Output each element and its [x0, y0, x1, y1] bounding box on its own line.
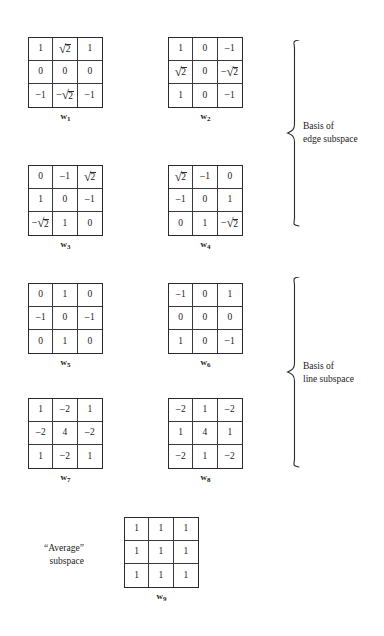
- matrix-cell: 0: [193, 84, 217, 107]
- matrix-cell: 0: [169, 307, 193, 330]
- matrix-cell: –1: [53, 166, 77, 189]
- matrix-caption-subscript: 7: [67, 476, 71, 484]
- matrix-cell: –1: [169, 189, 193, 212]
- matrix-cell: 1: [193, 212, 217, 235]
- matrix-w1: 1√21000–1–√2–1: [28, 37, 103, 108]
- matrix-basis-figure: 1√21000–1–√2–1w110–1√20–√210–1w20–1√210–…: [0, 0, 384, 636]
- matrix-cell: –√2: [218, 212, 242, 235]
- matrix-caption-w3: w3: [28, 239, 103, 251]
- matrix-caption-subscript: 8: [207, 476, 211, 484]
- matrix-cell: 0: [29, 166, 53, 189]
- matrix-cell: 0: [169, 212, 193, 235]
- matrix-cell: –2: [78, 422, 102, 445]
- matrix-cell: –2: [53, 445, 77, 468]
- matrix-cell: 0: [29, 330, 53, 353]
- matrix-cell: 0: [193, 61, 217, 84]
- matrix-cell: –1: [29, 307, 53, 330]
- matrix-cell: 0: [218, 307, 242, 330]
- matrix-cell: –1: [78, 189, 102, 212]
- matrix-cell: –2: [218, 399, 242, 422]
- matrix-caption-w6: w6: [168, 357, 243, 369]
- matrix-caption-subscript: 2: [207, 115, 211, 123]
- matrix-cell: 1: [53, 284, 77, 307]
- matrix-cell: –1: [78, 307, 102, 330]
- matrix-cell: 1: [125, 518, 149, 541]
- matrix-cell: 1: [78, 445, 102, 468]
- matrix-cell: 0: [53, 189, 77, 212]
- matrix-cell: 1: [29, 189, 53, 212]
- matrix-cell: 0: [78, 284, 102, 307]
- matrix-cell: 0: [193, 38, 217, 61]
- matrix-cell: –1: [218, 330, 242, 353]
- matrix-cell: –1: [169, 284, 193, 307]
- matrix-cell: 0: [29, 61, 53, 84]
- matrix-cell: –2: [29, 422, 53, 445]
- matrix-cell: 0: [193, 284, 217, 307]
- matrix-w5: 010–10–1010: [28, 283, 103, 354]
- matrix-cell: 4: [193, 422, 217, 445]
- matrix-cell: –√2: [29, 212, 53, 235]
- curly-brace-icon: [286, 277, 302, 469]
- matrix-cell: 1: [218, 284, 242, 307]
- matrix-caption-w8: w8: [168, 472, 243, 484]
- matrix-cell: 1: [218, 422, 242, 445]
- matrix-cell: 4: [53, 422, 77, 445]
- matrix-cell: 0: [193, 189, 217, 212]
- matrix-cell: –2: [53, 399, 77, 422]
- matrix-caption-w7: w7: [28, 472, 103, 484]
- matrix-cell: 1: [53, 212, 77, 235]
- matrix-cell: 1: [174, 518, 198, 541]
- matrix-caption-subscript: 1: [67, 115, 71, 123]
- matrix-cell: √2: [53, 38, 77, 61]
- matrix-cell: 0: [78, 330, 102, 353]
- matrix-cell: 1: [169, 330, 193, 353]
- matrix-cell: 0: [78, 61, 102, 84]
- matrix-cell: –√2: [53, 84, 77, 107]
- matrix-cell: 1: [125, 564, 149, 587]
- matrix-cell: –1: [78, 84, 102, 107]
- matrix-cell: –2: [218, 445, 242, 468]
- matrix-cell: –1: [193, 166, 217, 189]
- matrix-cell: 0: [53, 61, 77, 84]
- matrix-cell: 1: [169, 84, 193, 107]
- matrix-caption-subscript: 9: [163, 595, 167, 603]
- matrix-w7: 1–21–24–21–21: [28, 398, 103, 469]
- matrix-cell: 0: [78, 212, 102, 235]
- matrix-cell: –√2: [218, 61, 242, 84]
- matrix-w2: 10–1√20–√210–1: [168, 37, 243, 108]
- matrix-w4: √2–10–10101–√2: [168, 165, 243, 236]
- matrix-cell: 1: [174, 564, 198, 587]
- matrix-caption-w2: w2: [168, 111, 243, 123]
- matrix-cell: 1: [125, 541, 149, 564]
- matrix-cell: 0: [218, 166, 242, 189]
- matrix-caption-subscript: 5: [67, 361, 71, 369]
- matrix-w3: 0–1√210–1–√210: [28, 165, 103, 236]
- matrix-cell: √2: [78, 166, 102, 189]
- matrix-w8: –21–2141–21–2: [168, 398, 243, 469]
- matrix-caption-w9: w9: [124, 591, 199, 603]
- matrix-caption-subscript: 4: [207, 243, 211, 251]
- matrix-cell: 1: [78, 38, 102, 61]
- matrix-caption-subscript: 3: [67, 243, 71, 251]
- matrix-cell: –2: [169, 445, 193, 468]
- matrix-cell: 1: [193, 399, 217, 422]
- matrix-cell: 1: [174, 541, 198, 564]
- matrix-cell: –1: [29, 84, 53, 107]
- matrix-caption-w5: w5: [28, 357, 103, 369]
- group-label-edge-subspace: Basis of edge subspace: [303, 120, 358, 146]
- matrix-cell: 1: [29, 445, 53, 468]
- matrix-cell: –1: [218, 38, 242, 61]
- matrix-cell: √2: [169, 166, 193, 189]
- group-label-line-subspace: Basis of line subspace: [303, 360, 354, 386]
- matrix-cell: 1: [149, 564, 173, 587]
- matrix-cell: –1: [218, 84, 242, 107]
- matrix-cell: 1: [193, 445, 217, 468]
- group-label-average-subspace: “Average” subspace: [44, 542, 84, 568]
- matrix-caption-w4: w4: [168, 239, 243, 251]
- matrix-cell: 1: [218, 189, 242, 212]
- matrix-caption-w1: w1: [28, 111, 103, 123]
- matrix-cell: 0: [193, 307, 217, 330]
- matrix-cell: 1: [149, 518, 173, 541]
- matrix-w6: –10100010–1: [168, 283, 243, 354]
- matrix-cell: 1: [149, 541, 173, 564]
